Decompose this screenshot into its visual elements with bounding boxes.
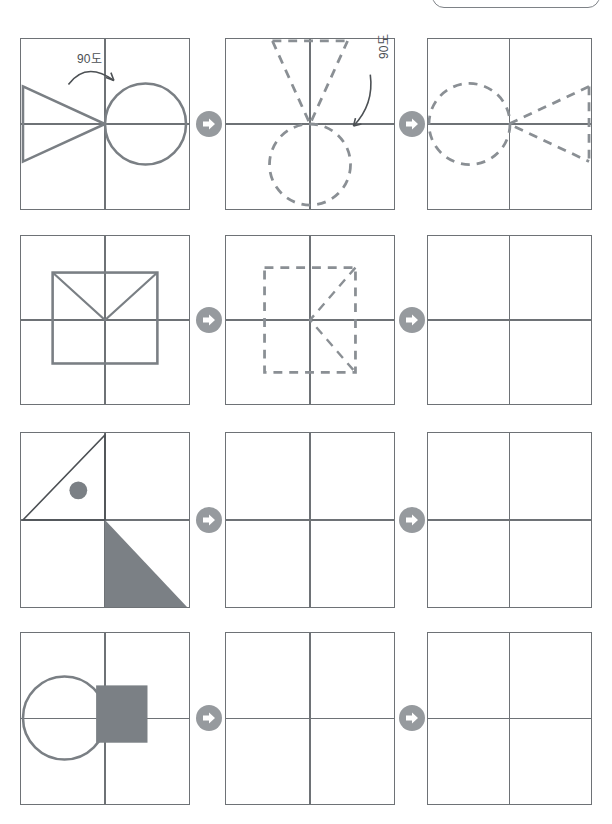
shape-circle-left-of-center <box>429 83 510 164</box>
exercise-row-4 <box>0 632 612 805</box>
shape-triangle-pointing-up <box>272 41 347 124</box>
step-arrow-icon-2[interactable] <box>399 111 425 137</box>
panel-r4p3[interactable] <box>427 632 592 805</box>
shape-outlined-circle-left <box>23 676 106 759</box>
panel-axis-vertical <box>509 633 510 804</box>
angle-label-r1p2: 90도 <box>374 34 391 59</box>
panel-r2p2[interactable] <box>225 235 395 405</box>
step-arrow-icon-8[interactable] <box>399 705 425 731</box>
worksheet-canvas: 90도 90도 <box>0 0 612 824</box>
angle-label-r1p1: 90도 <box>77 49 102 66</box>
shape-filled-dot <box>69 481 87 499</box>
arrow-right-glyph <box>201 312 217 328</box>
step-arrow-icon-3[interactable] <box>196 307 222 333</box>
panel-r2p1[interactable] <box>20 235 190 405</box>
figure-r2p2 <box>226 236 394 404</box>
arrow-right-glyph <box>404 710 420 726</box>
step-arrow-icon-6[interactable] <box>399 507 425 533</box>
step-arrow-icon-4[interactable] <box>399 307 425 333</box>
panel-r3p2[interactable] <box>225 432 395 608</box>
panel-r1p3[interactable] <box>427 38 592 210</box>
arrow-right-glyph <box>201 710 217 726</box>
step-arrow-icon-1[interactable] <box>196 111 222 137</box>
shape-triangle-pointing-right <box>23 86 105 161</box>
panel-r3p1[interactable] <box>20 432 190 608</box>
exercise-row-1: 90도 90도 <box>0 38 612 210</box>
panel-axis-vertical <box>509 236 510 404</box>
panel-r3p3[interactable] <box>427 432 592 608</box>
shape-filled-triangle-lower-right <box>105 520 187 607</box>
shape-envelope-diagonals-rotated <box>310 268 355 373</box>
panel-r1p2[interactable]: 90도 <box>225 38 395 210</box>
arrow-right-glyph <box>404 116 420 132</box>
arrow-right-glyph <box>404 312 420 328</box>
shape-circle-right-of-center <box>105 83 186 164</box>
step-arrow-icon-5[interactable] <box>196 507 222 533</box>
shape-envelope-diagonals <box>53 273 158 320</box>
shape-triangle-pointing-left <box>509 86 589 161</box>
figure-r4p1 <box>21 633 189 804</box>
arrow-right-glyph <box>404 512 420 528</box>
figure-r2p1 <box>21 236 189 404</box>
panel-r1p1[interactable]: 90도 <box>20 38 190 210</box>
panel-axis-vertical <box>509 433 510 607</box>
panel-r4p2[interactable] <box>225 632 395 805</box>
shape-outlined-triangle-upper-left <box>23 435 105 520</box>
arrow-right-glyph <box>201 116 217 132</box>
shape-filled-square <box>96 685 147 742</box>
panel-r2p3[interactable] <box>427 235 592 405</box>
figure-r3p1 <box>21 433 189 607</box>
step-arrow-icon-7[interactable] <box>196 705 222 731</box>
figure-r1p2 <box>226 39 394 209</box>
figure-r1p3 <box>428 39 591 209</box>
exercise-row-2 <box>0 235 612 405</box>
panel-axis-vertical <box>309 433 310 607</box>
exercise-row-3 <box>0 432 612 608</box>
arrow-right-glyph <box>201 512 217 528</box>
figure-r1p1 <box>21 39 189 209</box>
panel-axis-vertical <box>309 633 310 804</box>
panel-r4p1[interactable] <box>20 632 190 805</box>
shape-circle-below-center <box>269 124 350 205</box>
